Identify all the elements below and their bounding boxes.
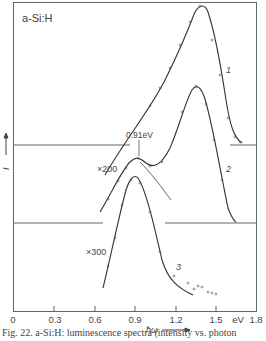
figure-caption: Fig. 22. a-Si:H: luminescence spectra (i… [2, 327, 266, 338]
plot-frame [14, 3, 257, 312]
baselines [13, 145, 256, 223]
luminescence-chart: 0 0.3 0.6 0.9 1.2 1.5 eV 1.8 ħω I a-Si:H… [0, 0, 266, 341]
curve-3-label: 3 [176, 262, 181, 272]
x-tick-1.2: 1.2 [169, 314, 182, 325]
curve-1-label: 1 [226, 65, 231, 75]
scale-factor-300: ×300 [86, 247, 106, 257]
curve-1 [105, 6, 242, 175]
y-axis-arrow-icon [4, 133, 8, 155]
x-tick-0: 0 [10, 314, 15, 325]
curve-3-data-points [107, 179, 217, 295]
scale-factor-200: ×200 [97, 164, 117, 174]
x-tick-0.9: 0.9 [128, 314, 141, 325]
x-tick-1.8: 1.8 [249, 314, 262, 325]
chart-title: a-Si:H [22, 12, 53, 24]
curve-3 [103, 177, 193, 296]
curve-2-label: 2 [225, 164, 231, 174]
curve-2 [100, 87, 236, 222]
y-axis-label: I [1, 167, 11, 170]
peak-annotation: 0.91eV [126, 130, 153, 140]
x-tick-0.3: 0.3 [48, 314, 61, 325]
x-unit-label: eV [232, 314, 244, 325]
x-tick-0.6: 0.6 [88, 314, 101, 325]
x-tick-1.5: 1.5 [209, 314, 222, 325]
x-axis-ticks [54, 306, 216, 311]
